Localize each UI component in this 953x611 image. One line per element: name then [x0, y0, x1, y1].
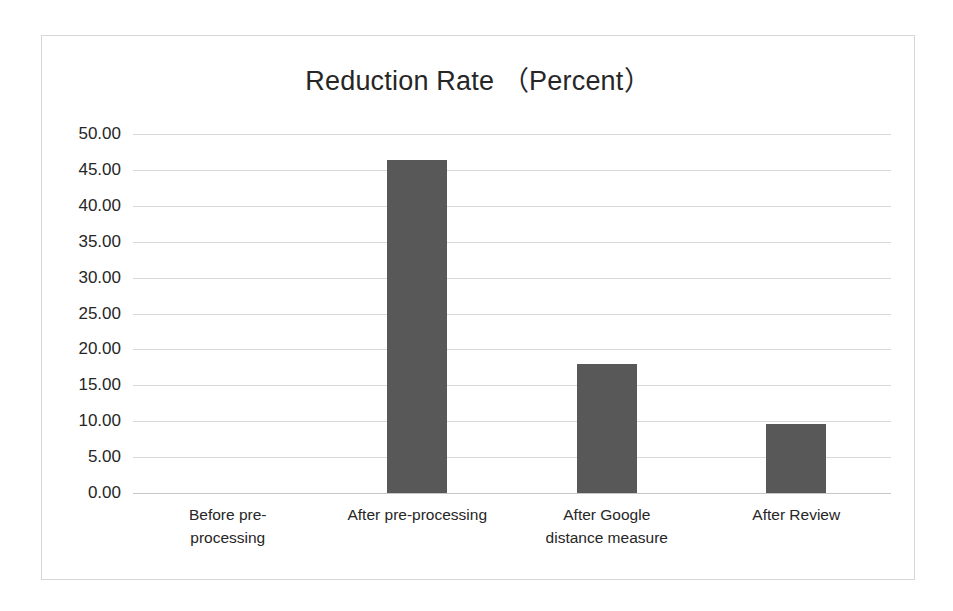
x-axis-tick-label-line: After pre-processing [323, 503, 513, 526]
y-axis-tick-label: 15.00 [78, 375, 121, 395]
bar[interactable] [577, 364, 637, 493]
y-axis-tick-label: 10.00 [78, 411, 121, 431]
y-axis-tick-label: 50.00 [78, 124, 121, 144]
bar-slot [323, 134, 513, 493]
gridline [133, 493, 891, 494]
bars-layer [133, 134, 891, 493]
chart-title: Reduction Rate （Percent） [42, 59, 914, 98]
y-axis-tick-label: 25.00 [78, 304, 121, 324]
plot-area: 50.0045.0040.0035.0030.0025.0020.0015.00… [133, 134, 891, 493]
y-axis-tick-label: 20.00 [78, 339, 121, 359]
y-axis-tick-label: 45.00 [78, 160, 121, 180]
x-axis-tick-label: After Review [702, 503, 892, 526]
bar-slot [702, 134, 892, 493]
x-axis-tick-label: Before pre-processing [133, 503, 323, 549]
x-axis-tick-label-line: After Review [702, 503, 892, 526]
chart-figure: Reduction Rate （Percent） 50.0045.0040.00… [41, 35, 915, 580]
y-axis-tick-label: 30.00 [78, 268, 121, 288]
y-axis-tick-label: 35.00 [78, 232, 121, 252]
x-axis-tick-label-line: Before pre- [133, 503, 323, 526]
bar-slot [133, 134, 323, 493]
bar[interactable] [387, 160, 447, 493]
bar[interactable] [766, 424, 826, 493]
bar-slot [512, 134, 702, 493]
x-axis-tick-label: After pre-processing [323, 503, 513, 526]
x-axis-tick-label-line: distance measure [512, 526, 702, 549]
y-axis-tick-label: 0.00 [88, 483, 121, 503]
x-axis-tick-label-line: processing [133, 526, 323, 549]
x-axis-labels: Before pre-processingAfter pre-processin… [133, 503, 891, 573]
x-axis-tick-label: After Googledistance measure [512, 503, 702, 549]
x-axis-tick-label-line: After Google [512, 503, 702, 526]
y-axis-tick-label: 5.00 [88, 447, 121, 467]
y-axis-tick-label: 40.00 [78, 196, 121, 216]
